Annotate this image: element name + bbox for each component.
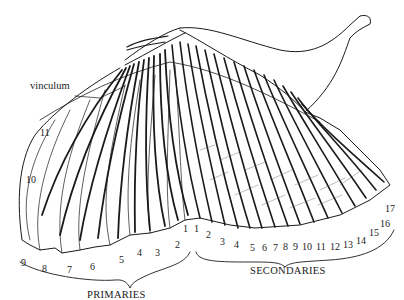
secondaries-14-label: 14 <box>356 236 366 246</box>
secondaries-5-label: 5 <box>250 243 255 253</box>
primaries-8-label: 8 <box>42 264 47 274</box>
secondaries-7-label: 7 <box>273 243 278 253</box>
secondaries-15-label: 15 <box>369 228 379 238</box>
primaries-5-label: 5 <box>119 255 124 265</box>
secondaries-11-label: 11 <box>316 242 326 252</box>
wing-illustration <box>0 0 404 300</box>
hand-bone <box>125 28 185 65</box>
secondaries-6-label: 6 <box>262 243 267 253</box>
secondaries-16-label: 16 <box>380 219 390 229</box>
secondaries-13-label: 13 <box>343 240 353 250</box>
vinculum-label: vinculum <box>30 81 70 92</box>
primaries-4-label: 4 <box>137 248 142 258</box>
primaries-6-label: 6 <box>90 262 95 272</box>
forearm-bone <box>180 30 305 112</box>
secondaries-8-label: 8 <box>283 242 288 252</box>
primaries-11-label: 11 <box>40 128 50 138</box>
primary-shafts <box>42 50 188 240</box>
primaries-1-label: 1 <box>183 224 188 234</box>
primaries-caption: PRIMARIES <box>87 290 146 300</box>
primaries-9-label: 9 <box>21 258 26 268</box>
primaries-7-label: 7 <box>67 265 72 275</box>
secondaries-17-label: 17 <box>385 204 395 214</box>
primaries-10-label: 10 <box>26 175 36 185</box>
alula <box>127 36 168 50</box>
secondaries-2-label: 2 <box>206 230 211 240</box>
secondaries-caption: SECONDARIES <box>250 266 326 277</box>
secondaries-4-label: 4 <box>234 240 239 250</box>
secondaries-10-label: 10 <box>302 242 312 252</box>
secondaries-1-label: 1 <box>194 224 199 234</box>
secondaries-3-label: 3 <box>220 237 225 247</box>
primaries-3-label: 3 <box>155 248 160 258</box>
secondaries-12-label: 12 <box>330 242 340 252</box>
primaries-2-label: 2 <box>175 240 180 250</box>
secondaries-9-label: 9 <box>293 242 298 252</box>
